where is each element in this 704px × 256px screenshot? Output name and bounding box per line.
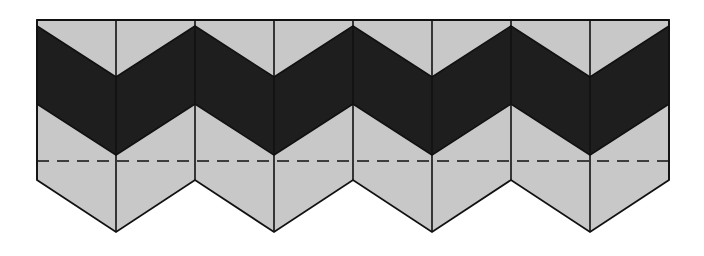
chevron-border-diagram: [0, 0, 704, 256]
